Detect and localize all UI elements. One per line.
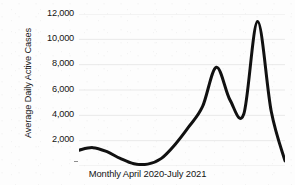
y-axis-tick-label: 12,000 (26, 8, 74, 18)
plot-area (79, 14, 285, 166)
y-axis-tick-label: 4,000 (26, 109, 74, 119)
y-axis-tick-labels: 12,00010,0008,0006,0004,0002,000 (26, 0, 74, 185)
chart-container: Average Daily Active Cases 12,00010,0008… (0, 0, 295, 185)
line-chart-svg (79, 14, 285, 166)
x-axis-title: Monthly April 2020-July 2021 (0, 168, 295, 179)
y-axis-tick-label: 10,000 (26, 33, 74, 43)
y-axis-tick-label: 2,000 (26, 134, 74, 144)
y-axis-tick-label: 8,000 (26, 58, 74, 68)
y-axis-tick-label: 6,000 (26, 84, 74, 94)
y-axis-zero-tick (74, 161, 78, 162)
data-series-line (79, 22, 285, 165)
